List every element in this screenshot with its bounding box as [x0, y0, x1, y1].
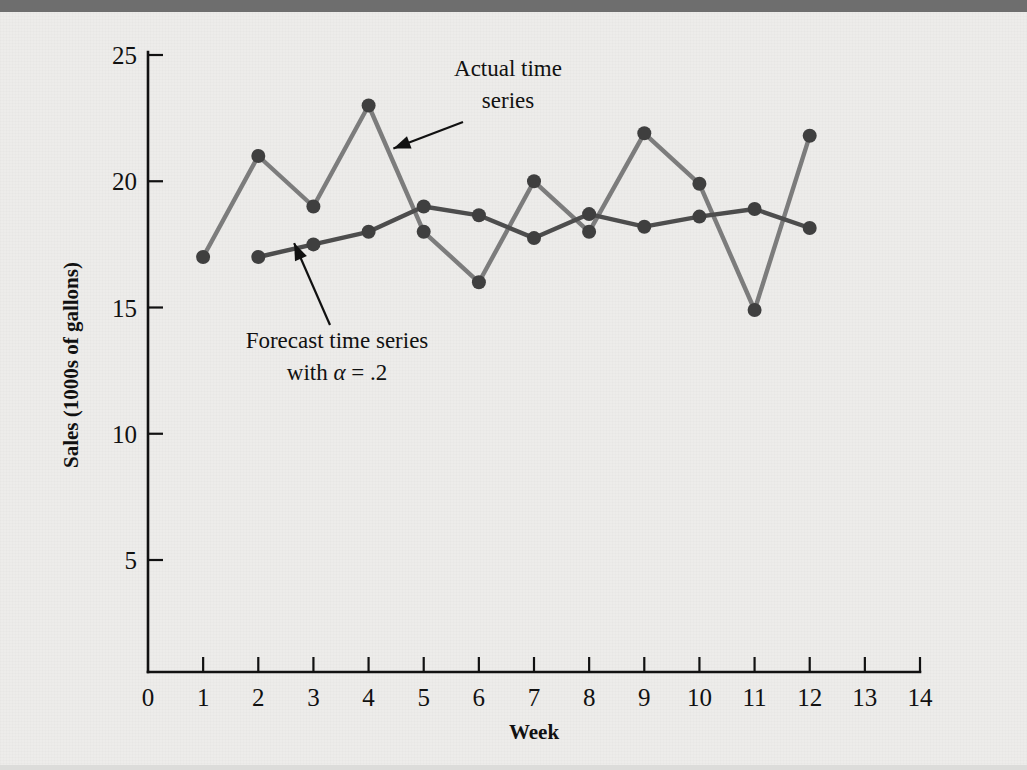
- data-point: [803, 129, 817, 143]
- y-tick-label: 25: [112, 42, 137, 69]
- data-point: [582, 225, 596, 239]
- x-axis-ticks: 01234567891011121314: [142, 657, 933, 711]
- forecast-annotation: Forecast time series with α = .2: [246, 243, 429, 385]
- forecast-annotation-value: = .2: [345, 360, 387, 385]
- forecast-annotation-line1: Forecast time series: [246, 328, 429, 353]
- y-tick-label: 20: [112, 168, 137, 195]
- data-point: [472, 275, 486, 289]
- actual-annotation-line1: Actual time: [454, 56, 562, 81]
- figure-canvas: 510152025 01234567891011121314 Week Sale…: [0, 0, 1027, 770]
- x-tick-label: 5: [417, 684, 430, 711]
- x-tick-label: 2: [252, 684, 265, 711]
- data-point: [692, 177, 706, 191]
- x-axis-title: Week: [509, 720, 559, 744]
- y-tick-label: 5: [125, 547, 138, 574]
- x-tick-label: 8: [583, 684, 596, 711]
- x-tick-label: 3: [307, 684, 320, 711]
- data-point: [306, 237, 320, 251]
- x-tick-label: 13: [852, 684, 877, 711]
- y-tick-label: 15: [112, 295, 137, 322]
- x-tick-label: 7: [528, 684, 541, 711]
- x-tick-label: 1: [197, 684, 210, 711]
- alpha-symbol: α: [333, 360, 346, 385]
- data-point: [472, 208, 486, 222]
- x-tick-label: 0: [142, 684, 155, 711]
- data-point: [527, 174, 541, 188]
- forecast-annotation-arrow: [294, 243, 330, 325]
- actual-series: [196, 99, 817, 318]
- y-tick-label: 10: [112, 421, 137, 448]
- x-tick-label: 12: [797, 684, 822, 711]
- actual-annotation-arrow: [393, 122, 463, 148]
- data-point: [251, 149, 265, 163]
- line-chart: 510152025 01234567891011121314 Week Sale…: [0, 0, 1027, 770]
- data-point: [803, 221, 817, 235]
- y-axis-title: Sales (1000s of gallons): [59, 262, 83, 468]
- data-point: [362, 225, 376, 239]
- data-point: [582, 207, 596, 221]
- data-point: [417, 225, 431, 239]
- y-axis-ticks: 510152025: [112, 42, 163, 574]
- data-point: [306, 200, 320, 214]
- data-point: [748, 303, 762, 317]
- x-tick-label: 9: [638, 684, 651, 711]
- x-tick-label: 11: [743, 684, 767, 711]
- data-point: [196, 250, 210, 264]
- x-tick-label: 4: [362, 684, 375, 711]
- data-point: [692, 210, 706, 224]
- data-point: [362, 99, 376, 113]
- forecast-annotation-line2: with α = .2: [287, 360, 387, 385]
- forecast-annotation-with: with: [287, 360, 334, 385]
- actual-annotation-line2: series: [482, 88, 534, 113]
- data-point: [527, 231, 541, 245]
- series-group: [196, 99, 817, 318]
- data-point: [417, 200, 431, 214]
- data-point: [251, 250, 265, 264]
- actual-annotation: Actual time series: [393, 56, 562, 148]
- x-tick-label: 14: [908, 684, 934, 711]
- data-point: [637, 220, 651, 234]
- data-point: [637, 126, 651, 140]
- x-tick-label: 6: [473, 684, 486, 711]
- x-tick-label: 10: [687, 684, 712, 711]
- data-point: [748, 202, 762, 216]
